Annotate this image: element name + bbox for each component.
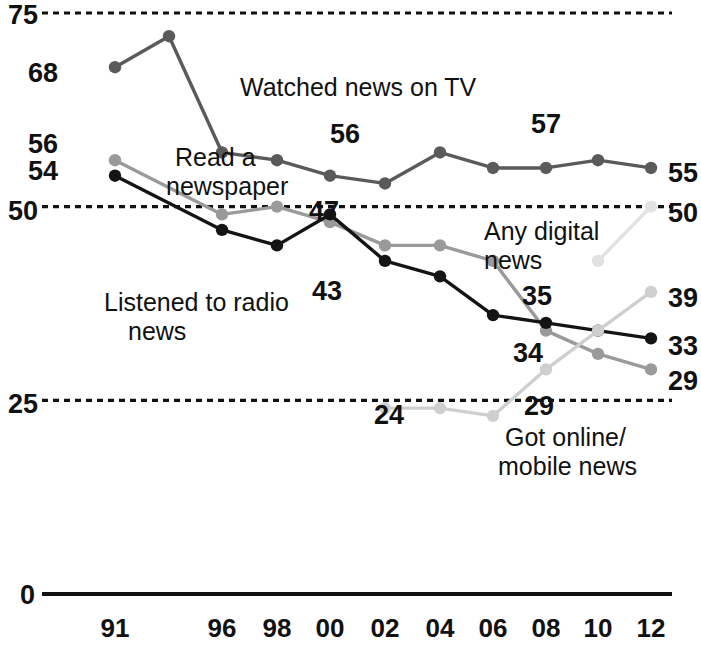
y-axis-label-50: 50 — [8, 196, 38, 226]
data-label-radio-47: 47 — [309, 196, 339, 226]
data-point — [109, 61, 121, 73]
data-point — [271, 239, 283, 251]
data-point — [324, 169, 336, 181]
x-axis-label-06: 06 — [479, 613, 508, 643]
x-axis-label-00: 00 — [316, 613, 345, 643]
end-label-any-digital-50: 50 — [668, 198, 698, 228]
data-point — [487, 410, 499, 422]
y-axis-label-56: 56 — [28, 129, 58, 159]
annotation-any-digital-news-line2: news — [484, 246, 542, 274]
data-point — [645, 200, 657, 212]
data-label-online-24: 24 — [374, 400, 404, 430]
data-point — [592, 348, 604, 360]
x-axis-label-96: 96 — [208, 613, 237, 643]
annotation-read-a-newspaper-line2: newspaper — [166, 172, 288, 200]
data-point — [645, 162, 657, 174]
data-point — [271, 200, 283, 212]
data-label-tv-56: 56 — [330, 119, 360, 149]
line-chart: 7568565450250919698000204060810125550393… — [0, 0, 701, 645]
data-point — [379, 255, 391, 267]
x-axis-label-91: 91 — [101, 613, 130, 643]
data-point — [109, 154, 121, 166]
end-label-newspaper-29: 29 — [668, 366, 698, 396]
x-axis-label-10: 10 — [584, 613, 613, 643]
y-axis-label-25: 25 — [8, 389, 38, 419]
x-axis-label-04: 04 — [426, 613, 455, 643]
data-point — [109, 169, 121, 181]
data-point — [216, 208, 228, 220]
y-axis-label-54: 54 — [28, 156, 58, 186]
x-axis-label-08: 08 — [532, 613, 561, 643]
data-point — [434, 239, 446, 251]
series-line — [598, 207, 651, 261]
data-point — [540, 317, 552, 329]
data-point — [271, 154, 283, 166]
data-point — [592, 255, 604, 267]
data-point — [163, 30, 175, 42]
data-point — [540, 162, 552, 174]
data-label-radio-34: 34 — [513, 338, 543, 368]
x-axis-label-12: 12 — [637, 613, 666, 643]
end-label-radio-33: 33 — [668, 331, 698, 361]
annotation-got-online-mobile-news-line1: Got online/ — [505, 423, 626, 451]
data-point — [434, 146, 446, 158]
data-point — [487, 162, 499, 174]
annotation-listened-to-radio-news-line1: Listened to radio — [104, 288, 289, 316]
data-point — [645, 363, 657, 375]
y-axis-label-68: 68 — [28, 58, 58, 88]
y-axis-label-0: 0 — [20, 580, 35, 610]
chart-container: 7568565450250919698000204060810125550393… — [0, 0, 701, 645]
annotation-got-online-mobile-news-line2: mobile news — [498, 452, 637, 480]
data-label-newspaper-35: 35 — [522, 281, 552, 311]
data-label-tv-57: 57 — [531, 109, 561, 139]
annotation-read-a-newspaper-line1: Read a — [175, 143, 256, 171]
series-any-digital-news — [592, 200, 657, 267]
data-label-radio-43: 43 — [312, 276, 342, 306]
end-label-online-39: 39 — [668, 283, 698, 313]
x-axis-label-98: 98 — [263, 613, 292, 643]
data-point — [592, 324, 604, 336]
data-point — [216, 224, 228, 236]
data-point — [592, 154, 604, 166]
annotation-listened-to-radio-news-line2: news — [128, 317, 186, 345]
data-point — [434, 270, 446, 282]
y-axis-label-75: 75 — [8, 0, 38, 30]
data-point — [379, 177, 391, 189]
data-point — [434, 402, 446, 414]
data-point — [645, 332, 657, 344]
data-point — [487, 309, 499, 321]
data-label-online-29: 29 — [524, 391, 554, 421]
end-label-tv-55: 55 — [668, 158, 698, 188]
annotation-any-digital-news-line1: Any digital — [484, 217, 599, 245]
data-point — [379, 239, 391, 251]
annotation-watched-news-on-tv: Watched news on TV — [240, 73, 477, 101]
x-axis-label-02: 02 — [371, 613, 400, 643]
data-point — [645, 286, 657, 298]
